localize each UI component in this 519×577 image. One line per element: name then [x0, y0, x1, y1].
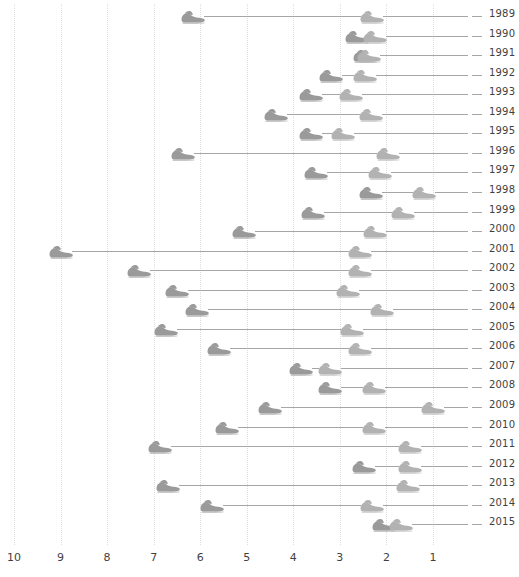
connector-line-tail: [391, 172, 468, 173]
shoe-icon-start: [317, 378, 343, 396]
row-tick-dash: [472, 94, 482, 95]
shoe-icon-start: [206, 339, 232, 357]
year-label: 2012: [489, 458, 515, 469]
connector-line-tail: [414, 212, 468, 213]
row-tick-dash: [472, 368, 482, 369]
year-label: 2014: [489, 497, 515, 508]
shoe-icon-start: [298, 85, 324, 103]
shoe-icon-end: [347, 339, 373, 357]
connector-line-inner: [312, 368, 319, 369]
chart-row: 1998: [0, 183, 519, 202]
year-label: 2007: [489, 360, 515, 371]
shoe-icon-end: [361, 378, 387, 396]
row-tick-dash: [472, 153, 482, 154]
year-label: 1990: [489, 28, 515, 39]
chart-row: 2007: [0, 359, 519, 378]
shoe-icon-end: [395, 476, 421, 494]
row-tick-dash: [472, 270, 482, 271]
year-label: 2000: [489, 223, 515, 234]
shoe-icon-end: [352, 66, 378, 84]
connector-line-tail: [419, 485, 468, 486]
connector-line-inner: [204, 16, 361, 17]
connector-line-inner: [322, 133, 332, 134]
year-label: 2006: [489, 340, 515, 351]
connector-line-tail: [444, 407, 468, 408]
shoe-icon-start: [126, 261, 152, 279]
row-tick-dash: [472, 192, 482, 193]
shoe-icon-start: [170, 144, 196, 162]
shoe-icon-end: [367, 163, 393, 181]
shoe-icon-end: [362, 27, 388, 45]
x-axis-tick-label: 7: [150, 551, 157, 564]
connector-line-tail: [385, 387, 468, 388]
chart-row: 1992: [0, 66, 519, 85]
row-tick-dash: [472, 387, 482, 388]
x-axis-tick-label: 9: [57, 551, 64, 564]
connector-line-inner: [342, 75, 354, 76]
connector-line-tail: [371, 270, 468, 271]
connector-line-inner: [208, 309, 371, 310]
row-tick-dash: [472, 466, 482, 467]
connector-line-inner: [287, 114, 360, 115]
chart-row: 1993: [0, 85, 519, 104]
year-label: 1994: [489, 106, 515, 117]
shoe-icon-start: [214, 418, 240, 436]
chart-row: 2015: [0, 515, 519, 534]
chart-row: 1990: [0, 27, 519, 46]
shoe-icon-start: [303, 163, 329, 181]
connector-line-tail: [435, 192, 468, 193]
shoe-icon-end: [330, 124, 356, 142]
x-axis-tick-label: 10: [7, 551, 21, 564]
connector-line-inner: [255, 231, 364, 232]
shoe-icon-end: [390, 203, 416, 221]
x-axis-tick-label: 5: [243, 551, 250, 564]
year-label: 2009: [489, 399, 515, 410]
shoe-icon-end: [358, 105, 384, 123]
connector-line-tail: [386, 231, 468, 232]
connector-line-inner: [341, 387, 364, 388]
shoe-icon-start: [351, 457, 377, 475]
row-tick-dash: [472, 55, 482, 56]
connector-line-inner: [375, 466, 399, 467]
shoe-icon-start: [153, 320, 179, 338]
year-label: 2001: [489, 243, 515, 254]
connector-line-inner: [238, 427, 364, 428]
shoe-icon-end: [347, 242, 373, 260]
row-tick-dash: [472, 212, 482, 213]
shoe-icon-start: [298, 124, 324, 142]
shoe-icon-start: [199, 496, 225, 514]
x-axis-tick-label: 6: [197, 551, 204, 564]
row-tick-dash: [472, 524, 482, 525]
connector-line-inner: [188, 290, 337, 291]
shoe-icon-start: [257, 398, 283, 416]
row-tick-dash: [472, 329, 482, 330]
connector-line-inner: [171, 446, 399, 447]
connector-line-inner: [179, 485, 397, 486]
row-tick-dash: [472, 485, 482, 486]
chart-row: 2013: [0, 476, 519, 495]
connector-line-inner: [72, 251, 349, 252]
year-label: 2003: [489, 282, 515, 293]
chart-row: 2010: [0, 418, 519, 437]
shoe-icon-start: [371, 515, 397, 533]
shoe-icon-start: [263, 105, 289, 123]
shoe-icon-end: [356, 46, 382, 64]
connector-line-tail: [386, 36, 468, 37]
chart-row: 2006: [0, 339, 519, 358]
shoe-icon-start: [184, 300, 210, 318]
connector-line-inner: [150, 270, 349, 271]
year-label: 1995: [489, 125, 515, 136]
connector-line-tail: [376, 75, 468, 76]
connector-line-inner: [230, 348, 349, 349]
year-label: 1998: [489, 184, 515, 195]
year-label: 2008: [489, 379, 515, 390]
year-label: 2015: [489, 516, 515, 527]
row-tick-dash: [472, 231, 482, 232]
connector-line-inner: [177, 329, 341, 330]
shoe-icon-end: [397, 457, 423, 475]
chart-row: 2001: [0, 242, 519, 261]
shoe-icon-end: [369, 300, 395, 318]
x-axis: 10987654321: [0, 545, 519, 577]
row-tick-dash: [472, 251, 482, 252]
shoe-icon-start: [48, 242, 74, 260]
